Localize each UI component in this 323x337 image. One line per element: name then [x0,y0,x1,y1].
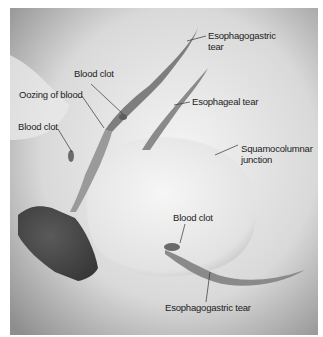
label-esophagogastric-tear-top: Esophagogastric tear [208,30,276,52]
label-esophageal-tear: Esophageal tear [192,96,258,107]
label-line: junction [241,154,313,165]
label-line: Esophagogastric [208,30,276,41]
label-line: tear [208,41,276,52]
label-squamocolumnar-junction: Squamocolumnar junction [241,143,313,165]
blood-clot-bottom-shape [164,243,180,251]
label-oozing-of-blood: Oozing of blood [19,89,83,100]
label-blood-clot-top: Blood clot [74,68,114,79]
blood-clot-left-shape [68,150,74,162]
label-blood-clot-left: Blood clot [18,121,58,132]
label-line: Squamocolumnar [241,143,313,154]
label-esophagogastric-tear-bottom: Esophagogastric tear [165,302,251,313]
blood-clot-top-shape [119,114,127,120]
label-blood-clot-bottom: Blood clot [173,212,213,223]
